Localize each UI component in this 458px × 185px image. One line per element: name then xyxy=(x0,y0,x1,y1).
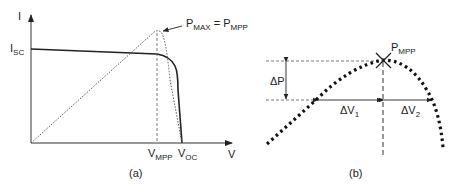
y-axis-label: I xyxy=(18,10,21,22)
pmax-pointer-arrow xyxy=(163,26,182,31)
diagram-canvas: I V ISC VMPP VOC PMAX = PMPP (a) PMPP ΔP… xyxy=(0,0,458,185)
iv-curve xyxy=(31,49,182,143)
pmax-label: PMAX = PMPP xyxy=(186,17,248,32)
delta-v1-label: ΔV1 xyxy=(340,104,360,119)
pv-curve-thick xyxy=(267,60,443,148)
pmpp-label: PMPP xyxy=(391,41,416,56)
caption-b: (b) xyxy=(349,167,362,179)
x-axis-label: V xyxy=(228,148,236,160)
voc-label: VOC xyxy=(178,147,198,162)
delta-p-label: ΔP xyxy=(270,75,285,87)
vmpp-label: VMPP xyxy=(148,147,173,162)
panel-b: PMPP ΔP ΔV1 ΔV2 (b) xyxy=(266,41,443,179)
caption-a: (a) xyxy=(129,167,142,179)
delta-v2-label: ΔV2 xyxy=(401,104,421,119)
panel-a: I V ISC VMPP VOC PMAX = PMPP (a) xyxy=(10,10,248,179)
pv-curve xyxy=(31,31,182,143)
isc-label: ISC xyxy=(10,42,24,57)
